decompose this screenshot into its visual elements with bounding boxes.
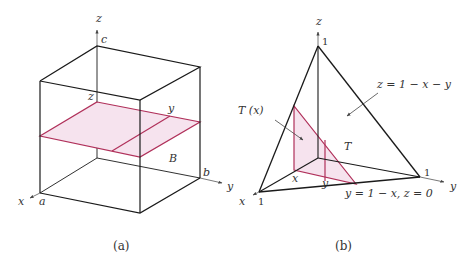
caption-a: (a) — [113, 239, 130, 253]
panel-a: z c z y B b y x a (a) — [18, 12, 234, 253]
y-axis-label: y — [226, 180, 234, 193]
z-intercept-label: 1 — [322, 36, 328, 47]
caption-b: (b) — [335, 239, 352, 253]
box-edge-hidden — [97, 158, 200, 178]
cross-section-label: T (x) — [238, 104, 264, 117]
x-axis-label: x — [239, 195, 246, 208]
x-axis — [253, 192, 259, 195]
figure: z c z y B b y x a (a) z — [0, 0, 470, 263]
slice-z-label: z — [87, 90, 94, 103]
bound-b-label: b — [203, 166, 210, 179]
x-intercept-label: 1 — [258, 196, 264, 207]
slice-x-label: x — [292, 172, 299, 185]
y-intercept-label: 1 — [424, 167, 430, 178]
x-axis-label: x — [18, 195, 25, 208]
base-line-equation: y = 1 − x, z = 0 — [344, 187, 433, 200]
y-axis-label: y — [449, 180, 457, 193]
region-t-label: T — [344, 140, 353, 153]
region-b-label: B — [168, 152, 177, 165]
cross-section-plane — [40, 102, 200, 157]
pointer-arrow-plane — [347, 93, 378, 116]
box-edge-hidden — [40, 158, 97, 193]
z-axis-label: z — [95, 12, 102, 25]
slice-y-label: y — [167, 102, 175, 115]
panel-b: z 1 z = 1 − x − y T (x) T 1 y x y y = 1 … — [238, 15, 457, 253]
z-axis-label: z — [315, 15, 322, 28]
plane-equation: z = 1 − x − y — [376, 78, 452, 91]
bound-c-label: c — [101, 33, 107, 46]
bound-a-label: a — [39, 195, 46, 208]
slice-y-label: y — [321, 177, 329, 190]
